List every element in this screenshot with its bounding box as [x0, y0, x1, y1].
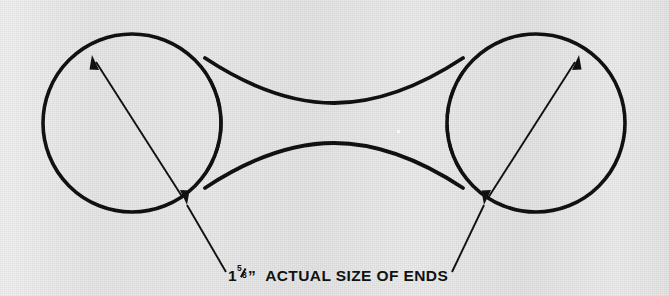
- waist-lower-curve: [205, 143, 463, 188]
- right-diameter-arrowhead-top: [572, 55, 582, 70]
- left-diameter-arrowhead-top: [90, 55, 100, 70]
- left-diameter-arrow-shaft: [96, 62, 183, 198]
- right-diameter-arrow-shaft: [488, 62, 575, 198]
- caption-inch-symbol: ”: [248, 267, 256, 284]
- white-speck-artifact: [397, 130, 400, 133]
- left-end-circle-outline: [43, 34, 221, 212]
- right-diameter-dimension: [482, 55, 582, 205]
- caption-label: ACTUAL SIZE OF ENDS: [265, 267, 448, 284]
- right-leader-line: [452, 205, 484, 272]
- caption-fraction: 58: [237, 266, 248, 281]
- dumbbell-diagram-svg: [0, 0, 669, 296]
- left-diameter-dimension: [90, 55, 190, 205]
- left-end-circle: [43, 34, 221, 212]
- dimension-caption: 158”ACTUAL SIZE OF ENDS: [228, 266, 448, 284]
- left-leader-line: [187, 205, 226, 272]
- waist-upper-curve: [205, 58, 463, 103]
- figure-canvas: 158”ACTUAL SIZE OF ENDS: [0, 0, 669, 296]
- caption-fraction-denominator: 8: [242, 271, 247, 280]
- caption-whole-number: 1: [228, 267, 237, 284]
